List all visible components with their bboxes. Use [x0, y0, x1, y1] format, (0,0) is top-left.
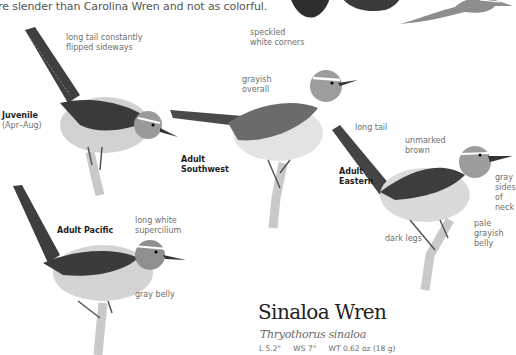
- note-pale-grayish-belly: pale grayish belly: [474, 219, 503, 249]
- measurement-length: L 5.2": [259, 344, 281, 353]
- note-long-white-supercilium: long white supercilium: [135, 216, 181, 236]
- note-long-tail-flipped: long tail constantly flipped sideways: [66, 33, 143, 53]
- note-long-tail: long tail: [355, 123, 387, 133]
- label-juvenile: Juvenile (Apr–Aug): [2, 111, 42, 131]
- species-measurements: L 5.2" WS 7" WT 0.62 oz (18 g): [259, 344, 405, 353]
- note-speckled-white-corners: speckled white corners: [250, 28, 304, 48]
- note-gray-belly: gray belly: [135, 290, 175, 300]
- measurement-wingspan: WS 7": [293, 344, 316, 353]
- measurement-weight: WT 0.62 oz (18 g): [329, 344, 396, 353]
- label-adult-pacific: Adult Pacific: [57, 226, 113, 236]
- note-grayish-overall: grayish overall: [242, 75, 271, 95]
- note-unmarked-brown: unmarked brown: [405, 136, 445, 156]
- flying-wren-illustration: [285, 0, 515, 37]
- label-adult-southwest: Adult Southwest: [181, 155, 229, 175]
- species-common-name: Sinaloa Wren: [258, 300, 386, 324]
- note-gray-sides-of-neck: gray sides of neck: [495, 173, 516, 213]
- pacific-wren-illustration: [8, 183, 193, 355]
- species-scientific-name: Thryothorus sinaloa: [260, 328, 366, 341]
- intro-text: re slender than Carolina Wren and not as…: [0, 0, 267, 13]
- label-adult-eastern: Adult Eastern: [339, 167, 374, 187]
- note-dark-legs: dark legs: [385, 234, 422, 244]
